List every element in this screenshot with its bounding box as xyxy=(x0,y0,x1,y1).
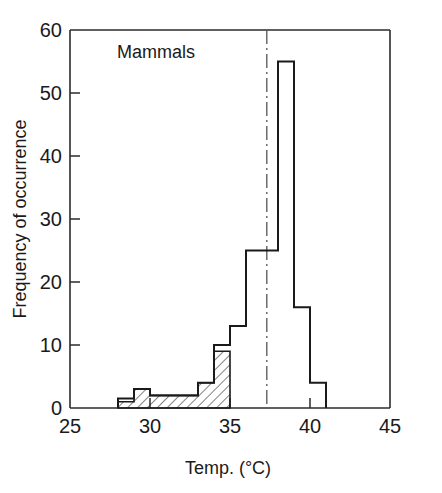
y-axis-title: Frequency of occurrence xyxy=(10,119,30,318)
svg-text:60: 60 xyxy=(40,19,62,41)
y-axis-ticks xyxy=(70,93,80,345)
svg-text:30: 30 xyxy=(139,415,161,437)
svg-text:50: 50 xyxy=(40,82,62,104)
histogram-figure: 60 50 40 30 20 10 0 25 30 35 40 45 Mamma… xyxy=(0,0,442,493)
y-tick-labels: 60 50 40 30 20 10 0 xyxy=(40,19,62,419)
svg-text:25: 25 xyxy=(59,415,81,437)
svg-text:20: 20 xyxy=(40,271,62,293)
chart-svg: 60 50 40 30 20 10 0 25 30 35 40 45 Mamma… xyxy=(0,0,442,493)
svg-text:35: 35 xyxy=(219,415,241,437)
x-tick-labels: 25 30 35 40 45 xyxy=(59,415,401,437)
svg-text:40: 40 xyxy=(40,145,62,167)
svg-text:45: 45 xyxy=(379,415,401,437)
svg-text:40: 40 xyxy=(299,415,321,437)
x-axis-title: Temp. (°C) xyxy=(185,458,271,478)
svg-text:30: 30 xyxy=(40,208,62,230)
svg-text:10: 10 xyxy=(40,334,62,356)
panel-label: Mammals xyxy=(117,42,195,62)
